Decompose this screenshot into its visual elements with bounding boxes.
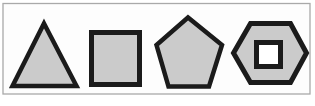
shapes-figure	[0, 0, 315, 106]
square-shape	[92, 33, 140, 85]
hexagon-inner-square-hole	[257, 43, 281, 67]
scanned-shapes-image	[0, 0, 315, 106]
